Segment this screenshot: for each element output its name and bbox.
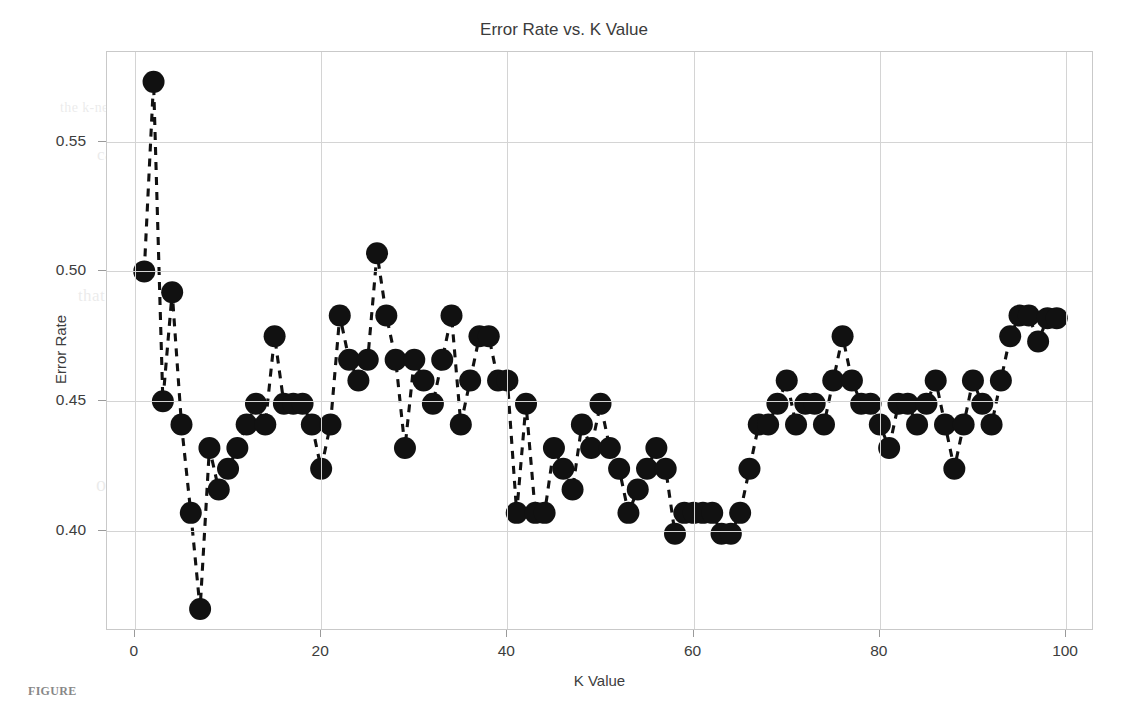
y-axis-label: Error Rate: [52, 280, 69, 420]
x-axis-tick-mark-0: [134, 630, 135, 637]
x-axis-tick-mark-5: [1065, 630, 1066, 637]
data-point-marker: [925, 369, 947, 391]
data-point-marker: [608, 458, 630, 480]
data-point-marker: [1046, 307, 1068, 329]
data-point-marker: [785, 414, 807, 436]
x-axis-tick-label-3: 60: [684, 642, 701, 660]
data-point-marker: [813, 414, 835, 436]
error-rate-series: [107, 52, 1094, 631]
data-point-marker: [906, 414, 928, 436]
plot-area: [106, 51, 1093, 630]
gridline-vertical-1: [321, 52, 322, 629]
data-point-marker: [562, 479, 584, 501]
x-axis-tick-label-2: 40: [498, 642, 515, 660]
data-point-marker: [245, 393, 267, 415]
data-point-marker: [534, 502, 556, 524]
gridline-vertical-2: [507, 52, 508, 629]
data-point-marker: [450, 414, 472, 436]
data-point-marker: [217, 458, 239, 480]
data-point-marker: [804, 393, 826, 415]
data-point-marker: [552, 458, 574, 480]
data-point-marker: [189, 598, 211, 620]
data-point-marker: [915, 393, 937, 415]
series-dashed-line: [144, 82, 1057, 609]
data-point-marker: [878, 437, 900, 459]
data-point-marker: [357, 349, 379, 371]
x-axis-tick-mark-1: [320, 630, 321, 637]
data-point-marker: [515, 393, 537, 415]
gridline-horizontal-0: [107, 531, 1092, 532]
data-point-marker: [720, 523, 742, 545]
data-point-marker: [161, 281, 183, 303]
y-axis-tick-label-2: 0.50: [56, 261, 86, 279]
data-point-marker: [645, 437, 667, 459]
data-point-marker: [441, 305, 463, 327]
gridline-horizontal-1: [107, 401, 1092, 402]
data-point-marker: [292, 393, 314, 415]
x-axis-tick-label-4: 80: [870, 642, 887, 660]
data-point-marker: [664, 523, 686, 545]
y-axis-tick-label-3: 0.55: [56, 132, 86, 150]
data-point-marker: [413, 369, 435, 391]
data-point-marker: [543, 437, 565, 459]
x-axis-tick-label-5: 100: [1052, 642, 1078, 660]
data-point-marker: [757, 414, 779, 436]
y-axis-tick-mark-3: [98, 141, 106, 142]
data-point-marker: [319, 414, 341, 436]
data-point-marker: [990, 369, 1012, 391]
data-point-marker: [953, 414, 975, 436]
data-point-marker: [375, 305, 397, 327]
data-point-marker: [366, 242, 388, 264]
x-axis-tick-label-1: 20: [312, 642, 329, 660]
data-point-marker: [776, 369, 798, 391]
x-axis-label: K Value: [106, 672, 1093, 689]
data-point-marker: [1018, 305, 1040, 327]
data-point-marker: [180, 502, 202, 524]
x-axis-tick-mark-4: [879, 630, 880, 637]
data-point-marker: [394, 437, 416, 459]
figure-container: the k-nearest neighbors algorithm was ev…: [0, 0, 1128, 712]
x-axis-tick-mark-2: [506, 630, 507, 637]
data-point-marker: [459, 369, 481, 391]
gridline-vertical-0: [135, 52, 136, 629]
data-point-marker: [571, 414, 593, 436]
data-point-marker: [655, 458, 677, 480]
data-point-marker: [431, 349, 453, 371]
data-point-marker: [738, 458, 760, 480]
data-point-marker: [226, 437, 248, 459]
gridline-horizontal-3: [107, 142, 1092, 143]
data-point-marker: [943, 458, 965, 480]
gridline-vertical-4: [880, 52, 881, 629]
data-point-marker: [198, 437, 220, 459]
x-axis-tick-mark-3: [693, 630, 694, 637]
data-point-marker: [617, 502, 639, 524]
data-point-marker: [208, 479, 230, 501]
data-point-marker: [627, 479, 649, 501]
data-point-marker: [999, 325, 1021, 347]
data-point-marker: [599, 437, 621, 459]
y-axis-tick-mark-1: [98, 400, 106, 401]
y-axis-tick-mark-2: [98, 270, 106, 271]
gridline-vertical-3: [694, 52, 695, 629]
gridline-vertical-5: [1066, 52, 1067, 629]
data-point-marker: [422, 393, 444, 415]
y-axis-tick-label-0: 0.40: [56, 521, 86, 539]
data-point-marker: [264, 325, 286, 347]
data-point-marker: [170, 414, 192, 436]
data-point-marker: [701, 502, 723, 524]
x-axis-tick-label-0: 0: [130, 642, 139, 660]
data-point-marker: [347, 369, 369, 391]
data-point-marker: [981, 414, 1003, 436]
figure-caption-fragment: FIGURE: [28, 684, 76, 699]
data-point-marker: [478, 325, 500, 347]
data-point-marker: [962, 369, 984, 391]
data-point-marker: [766, 393, 788, 415]
data-point-marker: [971, 393, 993, 415]
data-point-marker: [860, 393, 882, 415]
data-point-marker: [841, 369, 863, 391]
data-point-marker: [590, 393, 612, 415]
chart-title: Error Rate vs. K Value: [0, 20, 1128, 40]
data-point-marker: [729, 502, 751, 524]
data-point-marker: [329, 305, 351, 327]
y-axis-tick-mark-0: [98, 530, 106, 531]
